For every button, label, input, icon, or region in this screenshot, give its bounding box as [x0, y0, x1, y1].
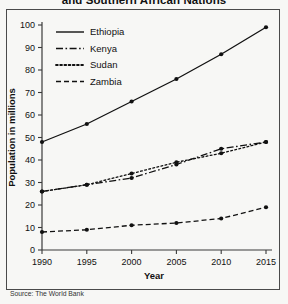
y-axis-label: Population in millions — [6, 88, 17, 187]
data-point-ethiopia-2015 — [264, 25, 268, 29]
data-point-ethiopia-2000 — [130, 99, 134, 103]
legend-label-ethiopia: Ethiopia — [90, 26, 125, 37]
y-tick-label: 50 — [25, 133, 35, 143]
series-lines — [40, 25, 268, 234]
data-point-kenya-2010 — [219, 147, 223, 151]
y-tick-label: 20 — [25, 200, 35, 210]
x-tick-label: 2010 — [211, 257, 231, 267]
series-line-ethiopia — [42, 27, 266, 142]
data-point-zambia-2010 — [219, 216, 223, 220]
x-tick-label: 2000 — [122, 257, 142, 267]
series-line-sudan — [42, 142, 266, 192]
x-tick-label: 2015 — [256, 257, 276, 267]
data-point-zambia-2015 — [264, 205, 268, 209]
data-point-ethiopia-2010 — [219, 52, 223, 56]
data-point-ethiopia-2005 — [174, 77, 178, 81]
data-point-sudan-2000 — [130, 171, 134, 175]
x-axis-label: Year — [144, 270, 164, 281]
y-tick-label: 40 — [25, 155, 35, 165]
legend-label-kenya: Kenya — [90, 43, 118, 54]
data-point-sudan-2015 — [264, 140, 268, 144]
y-tick-label: 10 — [25, 223, 35, 233]
legend-label-sudan: Sudan — [90, 59, 117, 70]
y-tick-label: 0 — [30, 245, 35, 255]
chart-figure: and Southern African Nations 01020304050… — [0, 0, 288, 304]
data-point-zambia-2005 — [174, 221, 178, 225]
x-tick-label: 1990 — [32, 257, 52, 267]
x-tick-label: 1995 — [77, 257, 97, 267]
y-tick-label: 80 — [25, 65, 35, 75]
data-point-ethiopia-1990 — [40, 140, 44, 144]
data-point-zambia-1990 — [40, 230, 44, 234]
series-line-zambia — [42, 207, 266, 232]
data-point-sudan-2010 — [219, 151, 223, 155]
y-axis-ticks: 0102030405060708090100 — [20, 20, 42, 255]
data-point-sudan-1995 — [85, 183, 89, 187]
data-point-zambia-1995 — [85, 228, 89, 232]
source-note: Source: The World Bank — [10, 290, 84, 297]
chart-legend: EthiopiaKenyaSudanZambia — [56, 26, 125, 87]
y-tick-label: 30 — [25, 178, 35, 188]
x-axis-ticks: 199019952000200520102015 — [32, 250, 276, 267]
chart-canvas: 0102030405060708090100 19901995200020052… — [0, 0, 288, 304]
series-line-kenya — [42, 142, 266, 192]
data-point-kenya-2000 — [130, 176, 134, 180]
y-tick-label: 70 — [25, 88, 35, 98]
data-point-sudan-2005 — [174, 160, 178, 164]
legend-label-zambia: Zambia — [90, 76, 122, 87]
y-tick-label: 90 — [25, 43, 35, 53]
data-point-zambia-2000 — [130, 223, 134, 227]
x-tick-label: 2005 — [166, 257, 186, 267]
data-point-ethiopia-1995 — [85, 122, 89, 126]
data-point-sudan-1990 — [40, 189, 44, 193]
y-tick-label: 100 — [20, 20, 35, 30]
y-tick-label: 60 — [25, 110, 35, 120]
